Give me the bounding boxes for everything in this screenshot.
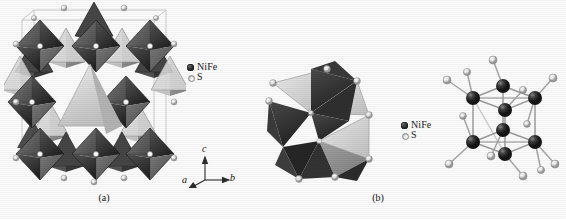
panel-a-caption: (a) bbox=[84, 192, 124, 203]
panel-b-ball-stick bbox=[431, 46, 563, 188]
legend-label-sulfur: S bbox=[411, 130, 417, 140]
legend-item-sulfur: S bbox=[186, 72, 217, 82]
legend-item-sulfur: S bbox=[400, 130, 431, 140]
panel-b: NiFe S bbox=[245, 0, 566, 219]
panel-a: NiFe S c b bbox=[0, 0, 245, 219]
sulfur-sphere-icon bbox=[400, 130, 411, 140]
panel-a-legend: NiFe S bbox=[186, 62, 217, 82]
panel-b-legend: NiFe S bbox=[400, 120, 431, 140]
panel-b-caption: (b) bbox=[358, 192, 398, 203]
axis-label-a: a bbox=[182, 175, 187, 185]
metal-sphere-icon bbox=[186, 62, 197, 72]
metal-sphere-icon bbox=[400, 120, 411, 130]
axis-triad: c b a bbox=[183, 146, 238, 188]
panel-b-polyhedra bbox=[265, 55, 391, 188]
panel-a-structure bbox=[4, 2, 186, 188]
axis-label-b: b bbox=[230, 173, 235, 183]
axis-label-c: c bbox=[202, 144, 206, 154]
sulfur-sphere-icon bbox=[186, 72, 197, 82]
legend-label-sulfur: S bbox=[197, 72, 203, 82]
figure-canvas: NiFe S c b bbox=[0, 0, 566, 219]
